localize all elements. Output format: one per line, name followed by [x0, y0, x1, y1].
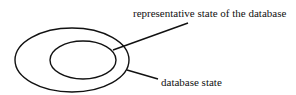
representative-state-leader-line: [113, 23, 188, 50]
database-state-leader-line: [127, 70, 158, 79]
database-state-ellipse: [15, 28, 129, 92]
database-state-label: database state: [161, 76, 222, 88]
set-diagram: representative state of the database dat…: [0, 0, 296, 95]
representative-state-label: representative state of the database: [133, 7, 286, 19]
representative-state-ellipse: [50, 41, 116, 79]
